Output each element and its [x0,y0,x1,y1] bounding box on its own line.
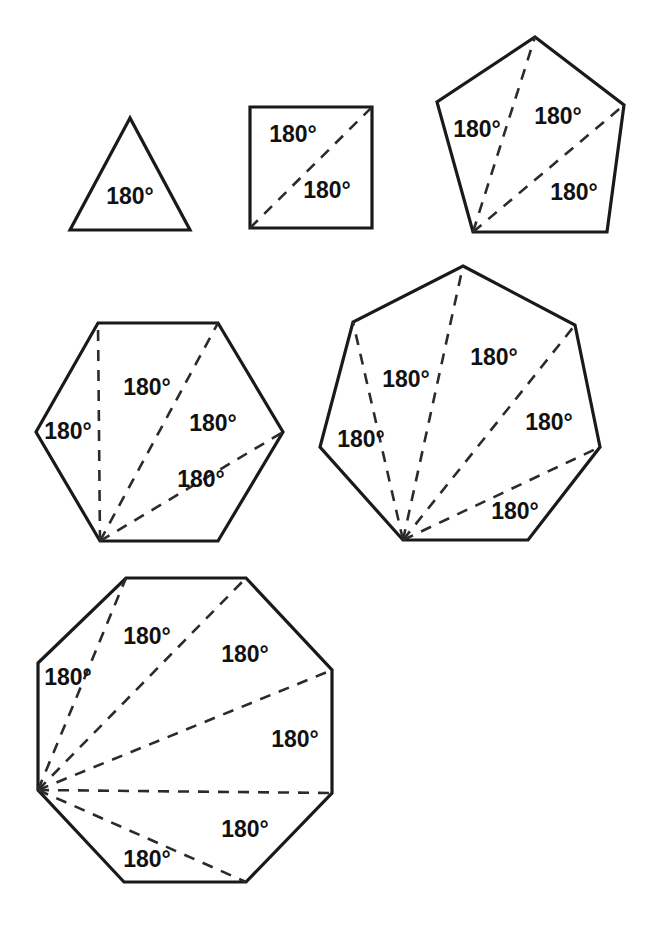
polygon-square: 180°180° [250,107,372,228]
heptagon-angle-label-5: 180° [491,498,539,524]
pentagon-angle-label-3: 180° [550,179,598,205]
octagon-angle-label-4: 180° [271,726,319,752]
square-angle-label-2: 180° [303,177,351,203]
octagon-angle-label-2: 180° [123,623,171,649]
heptagon-angle-label-3: 180° [470,344,518,370]
octagon-angle-label-1: 180° [44,664,92,690]
pentagon-angle-label-1: 180° [453,116,501,142]
octagon-angle-label-3: 180° [221,641,269,667]
triangle-angle-label-1: 180° [106,183,154,209]
octagon-angle-label-5: 180° [221,816,269,842]
square-angle-label-1: 180° [269,121,317,147]
heptagon-angle-label-4: 180° [525,409,573,435]
pentagon-angle-label-2: 180° [534,103,582,129]
hexagon-angle-label-4: 180° [177,466,225,492]
heptagon-angle-label-2: 180° [382,366,430,392]
octagon-angle-label-6: 180° [123,846,171,872]
hexagon-angle-label-2: 180° [123,374,171,400]
hexagon-angle-label-3: 180° [189,410,237,436]
hexagon-angle-label-1: 180° [44,418,92,444]
heptagon-angle-label-1: 180° [337,426,385,452]
polygon-triangulation-figure: 180°180°180°180°180°180°180°180°180°180°… [0,0,659,931]
polygon-octagon: 180°180°180°180°180°180° [38,578,332,882]
